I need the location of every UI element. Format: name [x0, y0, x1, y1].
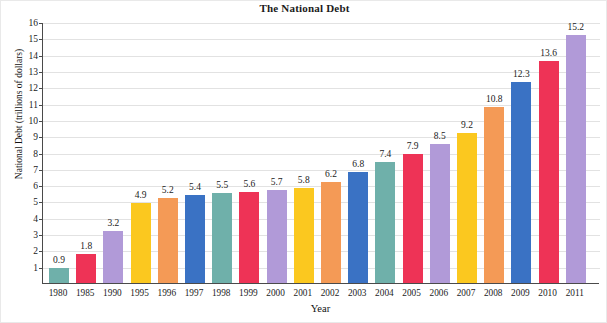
- x-axis-tick-labels: 1980198519901995199619971998199920002001…: [42, 1, 599, 323]
- chart-figure: The National Debt 1615141312111098765432…: [0, 0, 607, 323]
- y-axis-title: National Debt (trillions of dollars): [14, 4, 24, 224]
- y-axis-tick-label: 3: [8, 230, 38, 240]
- x-axis-tick-label: 2011: [558, 288, 592, 298]
- x-axis-title: Year: [42, 303, 599, 314]
- y-axis-tick-label: 1: [8, 263, 38, 273]
- y-axis-tick-label: 2: [8, 246, 38, 256]
